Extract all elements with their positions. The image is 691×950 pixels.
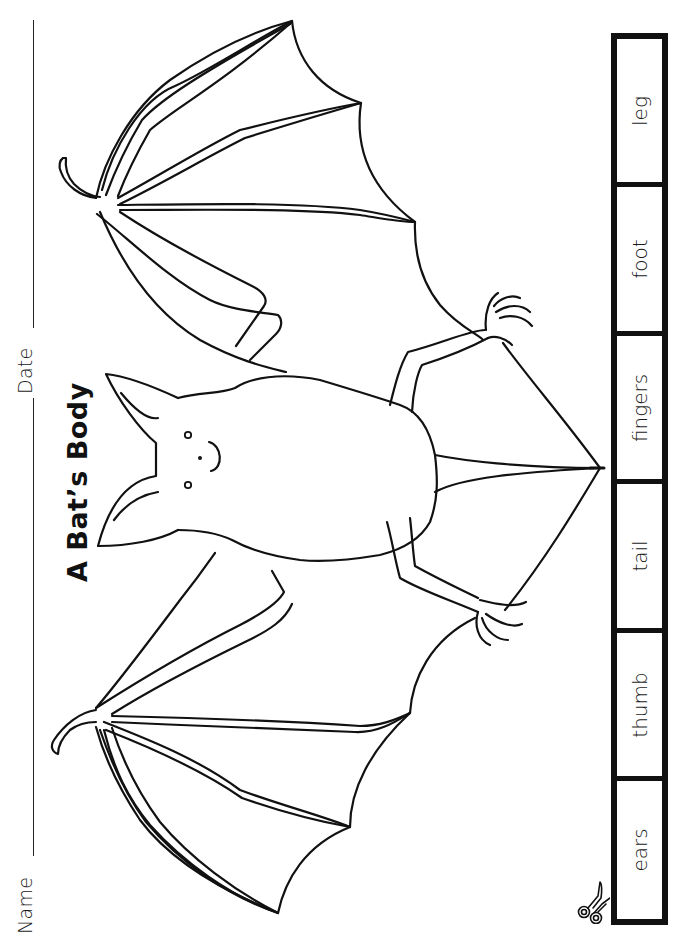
label-cell-foot[interactable]: foot: [617, 187, 662, 331]
label-cell-tail[interactable]: tail: [617, 484, 662, 628]
upper-leg: [390, 293, 600, 468]
cutout-label-strip: leg foot fingers tail thumb ears: [611, 33, 668, 925]
bat-illustration: [0, 0, 691, 950]
scissors-icon: [576, 878, 610, 924]
lower-wing: [52, 553, 475, 913]
worksheet-page: Date Name A Bat’s Body: [0, 0, 691, 950]
label-cell-fingers[interactable]: fingers: [617, 336, 662, 479]
tail-membrane: [435, 455, 604, 492]
label-text: tail: [628, 540, 652, 571]
bat-body: [98, 374, 437, 561]
lower-leg: [387, 468, 600, 645]
label-cell-ears[interactable]: ears: [617, 781, 662, 919]
label-text: fingers: [628, 373, 652, 441]
label-cell-thumb[interactable]: thumb: [617, 633, 662, 776]
label-cell-leg[interactable]: leg: [617, 39, 662, 182]
label-text: thumb: [628, 672, 652, 737]
label-text: foot: [628, 239, 652, 278]
upper-wing: [60, 21, 483, 372]
label-text: ears: [628, 828, 652, 871]
label-text: leg: [628, 96, 652, 126]
